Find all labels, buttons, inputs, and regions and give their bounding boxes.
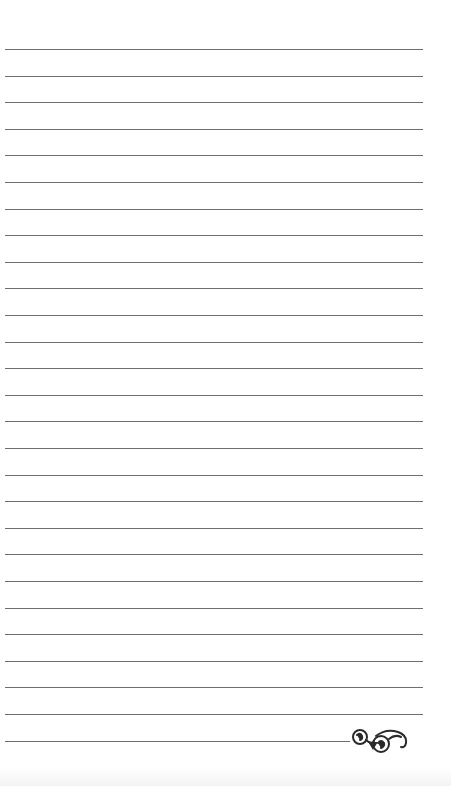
ruled-line [5,368,423,369]
ruled-line [5,209,423,210]
ruled-line [5,528,423,529]
ruled-line [5,501,423,502]
ruled-line [5,687,423,688]
ruled-line [5,714,423,715]
ruled-line [5,49,423,50]
ruled-line [5,342,423,343]
ruled-line [5,155,423,156]
page-bottom-edge [0,766,451,786]
ruled-line [5,288,423,289]
ruled-line [5,661,423,662]
ruled-line [5,76,423,77]
flourish-swirl-icon [351,727,413,757]
ruled-line [5,129,423,130]
ruled-line [5,475,423,476]
ruled-line [5,554,423,555]
lined-page [0,0,451,786]
ruled-line [5,448,423,449]
ruled-line [5,634,423,635]
ruled-line [5,421,423,422]
ruled-line [5,102,423,103]
ruled-line [5,741,350,742]
ruled-line [5,235,423,236]
ruled-line [5,581,423,582]
ruled-line [5,315,423,316]
ruled-line [5,262,423,263]
ruled-line [5,608,423,609]
ruled-line [5,182,423,183]
ruled-line [5,395,423,396]
